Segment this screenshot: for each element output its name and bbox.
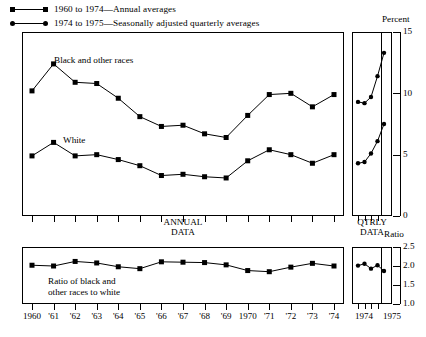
x-tick-annual xyxy=(269,304,270,310)
ratio-tick xyxy=(393,266,400,267)
ratio-tick-label: 1.0 xyxy=(403,299,414,308)
x-tick-annual-top xyxy=(269,216,270,222)
x-tick-annual-top xyxy=(161,216,162,222)
x-tick-quarterly xyxy=(365,304,366,309)
x-tick-label-quarterly: 1975 xyxy=(376,311,408,321)
x-tick-annual xyxy=(312,304,313,310)
x-tick-quarterly-top xyxy=(365,216,366,221)
x-tick-annual-top xyxy=(226,216,227,222)
chart-figure: 1960 to 1974—Annual averages 1974 to 197… xyxy=(0,0,426,337)
x-tick-annual xyxy=(248,304,249,310)
x-tick-annual xyxy=(140,304,141,310)
x-tick-annual xyxy=(334,304,335,310)
ratio-tick xyxy=(393,285,400,286)
x-tick-annual-top xyxy=(75,216,76,222)
x-tick-quarterly-top xyxy=(378,216,379,221)
x-tick-annual xyxy=(75,304,76,310)
x-tick-annual xyxy=(205,304,206,310)
ratio-tick-label: 2.5 xyxy=(403,242,414,251)
x-tick-annual xyxy=(291,304,292,310)
ratio-series-quarterly xyxy=(0,0,426,337)
x-tick-annual xyxy=(183,304,184,310)
x-tick-annual-top xyxy=(183,216,184,222)
x-tick-annual-top xyxy=(32,216,33,222)
x-tick-annual-top xyxy=(291,216,292,222)
ratio-tick-label: 1.5 xyxy=(403,280,414,289)
x-tick-annual-top xyxy=(334,216,335,222)
x-tick-annual-top xyxy=(205,216,206,222)
x-tick-annual-top xyxy=(248,216,249,222)
x-tick-annual xyxy=(32,304,33,310)
x-tick-annual xyxy=(226,304,227,310)
x-tick-annual xyxy=(161,304,162,310)
x-tick-annual-top xyxy=(312,216,313,222)
x-tick-quarterly xyxy=(358,304,359,309)
x-tick-quarterly-top xyxy=(358,216,359,221)
ratio-tick-label: 2.0 xyxy=(403,261,414,270)
ratio-tick xyxy=(393,304,400,305)
x-tick-quarterly xyxy=(371,304,372,309)
x-tick-annual-top xyxy=(118,216,119,222)
x-tick-annual-top xyxy=(140,216,141,222)
ratio-tick xyxy=(393,247,400,248)
x-tick-annual xyxy=(97,304,98,310)
x-tick-annual-top xyxy=(97,216,98,222)
x-tick-quarterly-top xyxy=(371,216,372,221)
x-tick-annual xyxy=(54,304,55,310)
x-tick-annual xyxy=(118,304,119,310)
x-tick-quarterly xyxy=(378,304,379,309)
x-tick-label-annual: '74 xyxy=(318,311,350,321)
x-tick-annual-top xyxy=(54,216,55,222)
ratio-unit-label: Ratio xyxy=(384,229,404,239)
